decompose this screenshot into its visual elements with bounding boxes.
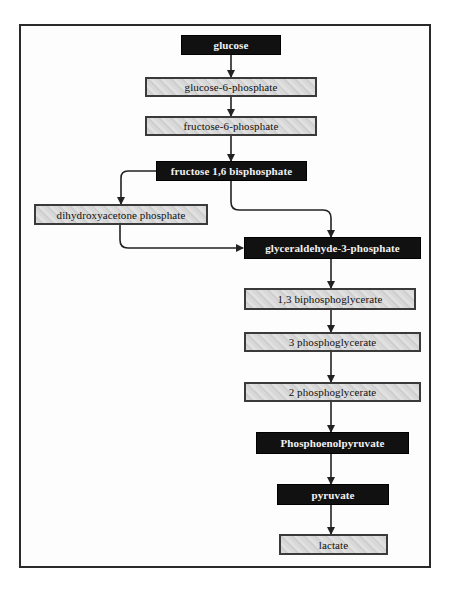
- node-label: glucose: [214, 39, 249, 51]
- node-glyceraldehyde-3-phosphate: glyceraldehyde-3-phosphate: [244, 237, 421, 259]
- node-fructose-6-phosphate: fructose-6-phosphate: [145, 116, 317, 136]
- node-label: 2 phosphoglycerate: [289, 386, 377, 398]
- node-label: fructose 1,6 bisphosphate: [171, 165, 292, 177]
- node-pyruvate: pyruvate: [277, 484, 389, 505]
- node-dihydroxyacetone-phosphate: dihydroxyacetone phosphate: [34, 204, 208, 225]
- node-label: glucose-6-phosphate: [185, 81, 278, 93]
- node-glucose: glucose: [181, 35, 281, 55]
- node-3-phosphoglycerate: 3 phosphoglycerate: [244, 332, 421, 352]
- node-label: lactate: [319, 539, 348, 551]
- node-label: fructose-6-phosphate: [184, 120, 279, 132]
- node-lactate: lactate: [279, 534, 388, 555]
- node-label: dihydroxyacetone phosphate: [57, 209, 186, 221]
- node-1-3-biphosphoglycerate: 1,3 biphosphoglycerate: [244, 288, 416, 310]
- node-glucose-6-phosphate: glucose-6-phosphate: [145, 77, 317, 97]
- node-label: 1,3 biphosphoglycerate: [278, 293, 383, 305]
- node-phosphoenolpyruvate: Phosphoenolpyruvate: [256, 432, 409, 454]
- node-label: Phosphoenolpyruvate: [281, 437, 385, 449]
- node-fructose-1-6-bisphosphate: fructose 1,6 bisphosphate: [156, 161, 307, 181]
- node-2-phosphoglycerate: 2 phosphoglycerate: [244, 382, 421, 402]
- node-label: pyruvate: [312, 489, 355, 501]
- node-label: glyceraldehyde-3-phosphate: [265, 242, 400, 254]
- node-label: 3 phosphoglycerate: [289, 336, 377, 348]
